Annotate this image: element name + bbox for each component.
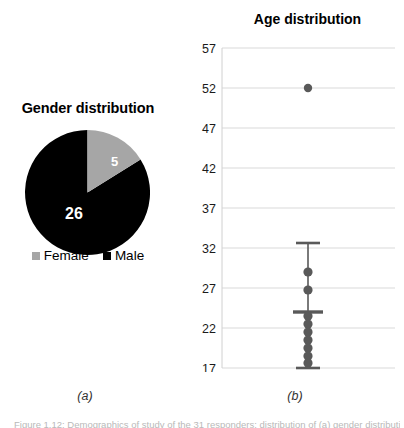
legend-item-male: Male: [103, 248, 144, 263]
y-tick-22: 22: [202, 322, 216, 336]
dot-plot-title: Age distribution: [215, 11, 400, 27]
dot-plot-svg: 57 52 47 42 37 32 27 22 17: [195, 32, 404, 372]
y-tick-42: 42: [202, 162, 216, 176]
subcaption-a: (a): [45, 389, 125, 403]
y-tick-52: 52: [202, 82, 216, 96]
legend-swatch-male-icon: [103, 252, 111, 260]
data-point: [303, 285, 312, 294]
dot-plot: 57 52 47 42 37 32 27 22 17: [195, 32, 404, 372]
pie-chart-svg: 5 26: [25, 130, 150, 255]
figure-caption: Figure 1.12: Demographics of study of th…: [14, 419, 400, 428]
legend-label-female: Female: [44, 248, 89, 263]
y-tick-57: 57: [202, 42, 216, 56]
y-axis-tick-labels: 57 52 47 42 37 32 27 22 17: [202, 42, 216, 372]
gender-distribution-panel: Gender distribution 5 26 Female Male: [0, 100, 190, 275]
y-tick-32: 32: [202, 242, 216, 256]
y-tick-37: 37: [202, 202, 216, 216]
legend-item-female: Female: [32, 248, 89, 263]
data-point-outlier: [304, 84, 312, 92]
age-distribution-panel: Age distribution 57 52 47 42 37: [195, 8, 404, 378]
subcaption-b: (b): [255, 389, 335, 403]
pie-legend: Female Male: [0, 248, 176, 263]
data-point: [303, 311, 312, 320]
legend-swatch-female-icon: [32, 252, 40, 260]
data-point: [303, 327, 312, 336]
data-points: [303, 84, 312, 368]
pie-chart: 5 26: [25, 130, 150, 255]
legend-label-male: Male: [115, 248, 144, 263]
pie-label-male: 26: [65, 205, 83, 222]
y-tick-47: 47: [202, 122, 216, 136]
pie-label-female: 5: [111, 154, 118, 169]
data-point: [303, 335, 312, 344]
data-point: [303, 343, 312, 352]
pie-chart-title: Gender distribution: [0, 100, 176, 116]
data-point: [303, 267, 312, 276]
y-tick-17: 17: [202, 362, 216, 372]
data-point: [303, 358, 312, 367]
data-point: [303, 319, 312, 328]
y-tick-27: 27: [202, 282, 216, 296]
